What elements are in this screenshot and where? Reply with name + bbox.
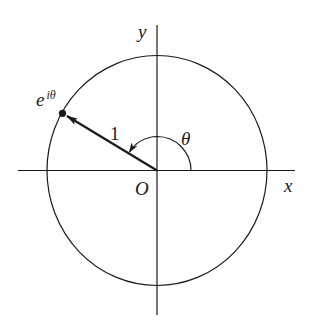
angle-label: θ	[181, 128, 190, 149]
unit-circle-diagram: y x O 1 θ e iθ	[0, 0, 310, 323]
radius-label: 1	[110, 123, 120, 144]
x-axis-label: x	[283, 175, 293, 196]
point-label-base: e	[36, 89, 44, 110]
point-label-exponent: iθ	[47, 88, 56, 102]
y-axis-label: y	[136, 21, 147, 42]
origin-label: O	[135, 178, 149, 199]
point-e-i-theta	[59, 110, 66, 117]
